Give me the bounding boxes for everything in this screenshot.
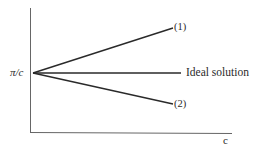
line-2-label: (2)	[174, 99, 186, 110]
x-axis	[30, 133, 232, 134]
line-1-label: (1)	[174, 22, 186, 33]
line-1	[33, 28, 173, 73]
line-ideal-label: Ideal solution	[186, 67, 249, 79]
line-2	[33, 73, 173, 104]
osmotic-pressure-diagram: π/c (1) Ideal solution (2) c	[0, 0, 258, 153]
y-axis-label: π/c	[10, 67, 23, 78]
x-axis-label: c	[223, 135, 228, 146]
